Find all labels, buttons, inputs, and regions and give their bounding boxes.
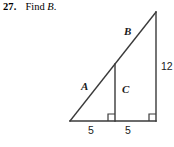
problem-figure-container: 27. Find B. A B C 12 5 5	[0, 0, 174, 147]
label-vertical-leg-length: 12	[161, 61, 173, 72]
label-base-right-length: 5	[125, 125, 131, 136]
triangle-svg	[0, 0, 174, 147]
label-side-c: C	[122, 84, 129, 95]
right-angle-mark-corner-icon	[149, 114, 156, 121]
label-side-a: A	[81, 81, 88, 92]
triangle-figure: A B C 12 5 5	[0, 0, 174, 147]
right-angle-mark-interior-icon	[108, 114, 115, 121]
hypotenuse-line	[70, 12, 156, 121]
label-side-b: B	[124, 26, 131, 37]
label-base-left-length: 5	[88, 125, 94, 136]
